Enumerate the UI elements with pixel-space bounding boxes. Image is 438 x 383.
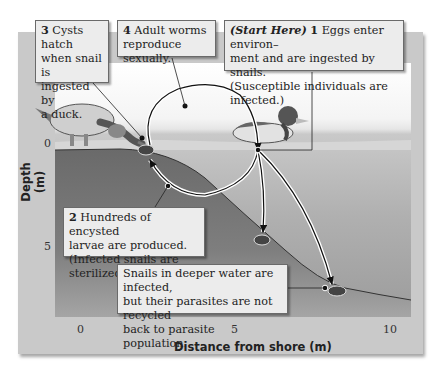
start-here-label: (Start Here) (230, 23, 307, 37)
callout-step4: 4 Adult worms reproduce sexually. (117, 20, 216, 57)
x-tick-10: 10 (383, 323, 397, 336)
text-line: Hundreds of encysted (69, 211, 151, 238)
y-axis-label: Depth (m) (19, 152, 47, 212)
step-number: 2 (69, 210, 77, 224)
life-cycle-figure: 3 Cysts hatch when snail is ingested by … (0, 0, 438, 383)
duck-swimming-icon (233, 106, 309, 143)
text-line: larvae are produced. (69, 239, 187, 252)
y-tick-0: 0 (44, 137, 51, 150)
x-tick-5: 5 (231, 323, 238, 336)
text-line: Snails in deeper water are infected, (123, 267, 273, 294)
callout-step3: 3 Cysts hatch when snail is ingested by … (35, 20, 109, 83)
text-line: Adult worms (134, 24, 206, 37)
snail-deep-icon (328, 286, 346, 296)
x-tick-0: 0 (77, 323, 84, 336)
step-number: 4 (123, 23, 131, 37)
text-line: when snail is (41, 52, 102, 79)
water-surface (55, 140, 411, 150)
y-tick-5: 5 (44, 240, 51, 253)
x-axis-label: Distance from shore (m) (174, 340, 332, 354)
snail-shore-icon (138, 145, 154, 155)
callout-deep-water: Snails in deeper water are infected, but… (117, 264, 288, 314)
callout-step2: 2 Hundreds of encysted larvae are produc… (63, 207, 205, 257)
snail-mid-icon (254, 235, 270, 245)
step-number: 3 (41, 23, 49, 37)
callout-step1: (Start Here) 1 Eggs enter environ– ment … (224, 20, 404, 71)
text-line: a duck. (41, 108, 82, 121)
step-number: 1 (310, 23, 318, 37)
